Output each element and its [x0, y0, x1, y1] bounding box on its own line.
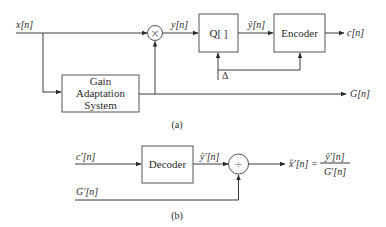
decoder-output-label: ŷ′[n]: [199, 151, 220, 162]
step-size-label: Δ: [222, 70, 229, 81]
gain-input-label: G′[n]: [76, 186, 98, 197]
quantizer-output-label: ŷ[n]: [247, 19, 265, 30]
multiply-icon: ×: [151, 28, 159, 39]
output-numerator: ŷ′[n]: [324, 151, 345, 162]
decoder-label: Decoder: [149, 158, 187, 170]
encoder-output-label: c[n]: [347, 27, 364, 38]
gain-box-line-3: System: [84, 99, 117, 111]
diagram-a: x[n] × y[n] Q[ ] ŷ[n] Encoder c[n] Δ Gai…: [15, 14, 370, 131]
branch-to-gain-line: [43, 33, 61, 92]
encoder-label: Encoder: [281, 27, 318, 39]
gain-box-line-2: Adaptation: [76, 87, 125, 99]
decoder-input-label: c′[n]: [76, 151, 96, 162]
gain-box-line-1: Gain: [90, 75, 112, 87]
quantizer-label: Q[ ]: [209, 27, 227, 39]
block-diagram: x[n] × y[n] Q[ ] ŷ[n] Encoder c[n] Δ Gai…: [0, 0, 386, 227]
output-lhs-label: x̂′[n] =: [288, 158, 318, 169]
input-label-x: x[n]: [15, 19, 33, 30]
diagram-b: c′[n] Decoder ŷ′[n] ÷ G′[n] x̂′[n] = ŷ′[…: [75, 146, 350, 222]
caption-b: (b): [171, 210, 183, 222]
step-to-encoder-line: [218, 53, 300, 70]
mult-output-label: y[n]: [170, 19, 188, 30]
divide-icon: ÷: [234, 159, 242, 170]
gain-output-label: G[n]: [350, 88, 370, 99]
output-denominator: G′[n]: [324, 166, 346, 177]
caption-a: (a): [171, 119, 182, 131]
